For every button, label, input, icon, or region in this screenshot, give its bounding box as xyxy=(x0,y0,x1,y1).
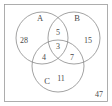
region-a-and-b-and-c-count: 3 xyxy=(56,42,60,51)
region-b-only-count: 15 xyxy=(84,36,92,45)
venn-diagram-figure: A B C 28 15 11 5 4 7 3 47 xyxy=(0,0,112,106)
set-b-label: B xyxy=(74,13,80,23)
region-a-and-c-count: 4 xyxy=(42,53,46,62)
region-a-only-count: 28 xyxy=(20,36,28,45)
region-c-only-count: 11 xyxy=(57,74,65,83)
set-c-label: C xyxy=(44,76,50,86)
set-a-label: A xyxy=(37,13,44,23)
region-b-and-c-count: 7 xyxy=(70,53,74,62)
region-a-and-b-count: 5 xyxy=(56,28,60,37)
universe-outside-count: 47 xyxy=(95,90,103,99)
